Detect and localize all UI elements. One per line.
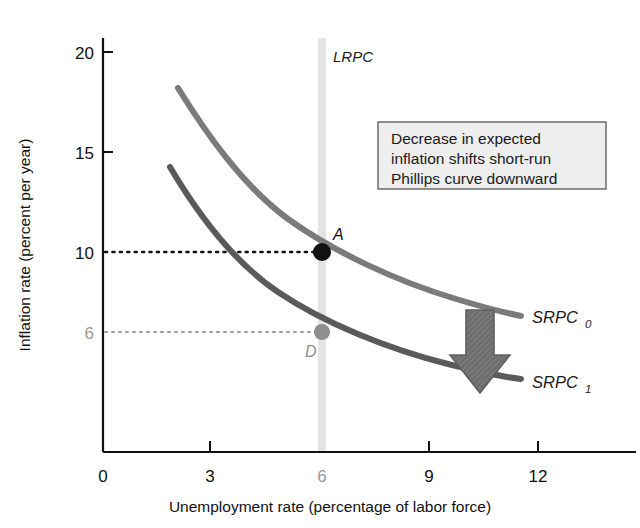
y-tick-label-6: 6 [85, 324, 94, 343]
y-tick-label-15: 15 [75, 144, 94, 163]
data-point-d [314, 324, 330, 340]
note-box-line-1: Decrease in expected [391, 130, 541, 147]
data-point-d-label: D [305, 343, 317, 360]
note-box: Decrease in expected inflation shifts sh… [378, 122, 606, 189]
srpc0-label: SRPC [532, 308, 578, 326]
x-tick-label-3: 3 [205, 467, 214, 486]
data-point-a [313, 243, 331, 261]
chart-page: LRPC 20 15 10 6 0 3 6 9 12 Unemployment … [0, 0, 640, 528]
data-point-a-label: A [332, 226, 344, 243]
shift-arrow-shape [450, 310, 510, 393]
x-tick-label-12: 12 [529, 467, 548, 486]
x-axis-title: Unemployment rate (percentage of labor f… [169, 498, 491, 515]
x-axis: 0 3 6 9 12 [98, 441, 636, 486]
note-box-line-3: Phillips curve downward [391, 170, 557, 187]
phillips-curve-chart: LRPC 20 15 10 6 0 3 6 9 12 Unemployment … [0, 0, 640, 528]
data-point-d-group: D [305, 324, 330, 360]
lrpc-label: LRPC [333, 48, 373, 65]
srpc1-label: SRPC [532, 373, 578, 391]
note-box-line-2: inflation shifts short-run [391, 150, 551, 167]
y-tick-label-20: 20 [75, 44, 94, 63]
x-tick-label-9: 9 [424, 467, 433, 486]
x-tick-label-6: 6 [317, 467, 326, 486]
y-axis-title: Inflation rate (percent per year) [16, 139, 33, 352]
leader-lines [105, 252, 320, 332]
y-tick-label-10: 10 [75, 244, 94, 263]
x-tick-label-0: 0 [98, 467, 107, 486]
srpc1-label-subscript: 1 [585, 383, 591, 395]
srpc1-label-group: SRPC 1 [532, 373, 591, 395]
y-axis: 20 15 10 6 [75, 38, 113, 452]
srpc0-label-subscript: 0 [585, 318, 592, 330]
srpc0-label-group: SRPC 0 [532, 308, 592, 330]
shift-arrow-icon [450, 310, 510, 393]
